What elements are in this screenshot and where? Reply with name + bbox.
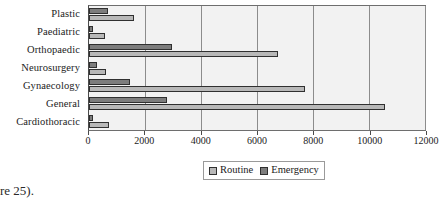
category-label: Orthopaedic <box>0 41 84 59</box>
bar-group <box>89 59 425 77</box>
bar-group <box>89 112 425 130</box>
category-axis: PlasticPaediatricOrthopaedicNeurosurgery… <box>0 5 84 131</box>
legend-label: Routine <box>220 165 253 176</box>
axis-tick-label: 0 <box>86 136 91 146</box>
bar-emergency <box>89 8 108 14</box>
bar-group <box>89 24 425 42</box>
bar-group <box>89 95 425 113</box>
axis-tick-label: 12000 <box>414 136 439 146</box>
category-label: General <box>0 95 84 113</box>
plot-area <box>88 5 426 131</box>
category-label: Cardiothoracic <box>0 113 84 131</box>
bar-routine <box>89 15 134 21</box>
bar-emergency <box>89 115 93 121</box>
legend-entry-routine: Routine <box>209 165 253 176</box>
caption-fragment: re 25). <box>0 184 34 197</box>
bar-emergency <box>89 79 130 85</box>
legend-entry-emergency: Emergency <box>260 165 319 176</box>
bar-group <box>89 41 425 59</box>
bar-routine <box>89 122 109 128</box>
bar-routine <box>89 86 305 92</box>
legend-swatch-icon <box>260 167 268 175</box>
bar-routine <box>89 69 106 75</box>
bar-emergency <box>89 62 97 68</box>
axis-tick-label: 4000 <box>191 136 211 146</box>
bar-group <box>89 77 425 95</box>
category-label: Gynaecology <box>0 77 84 95</box>
bar-chart-figure: PlasticPaediatricOrthopaedicNeurosurgery… <box>0 0 445 204</box>
bar-group <box>89 6 425 24</box>
axis-tick-label: 8000 <box>303 136 323 146</box>
bar-routine <box>89 51 278 57</box>
chart-legend: RoutineEmergency <box>203 161 325 180</box>
category-label: Paediatric <box>0 23 84 41</box>
category-label: Neurosurgery <box>0 59 84 77</box>
bar-emergency <box>89 97 167 103</box>
gridline <box>425 6 426 130</box>
bar-emergency <box>89 44 172 50</box>
bars-layer <box>89 6 425 130</box>
legend-swatch-icon <box>209 167 217 175</box>
value-axis: 020004000600080001000012000 <box>88 131 426 153</box>
bar-emergency <box>89 26 93 32</box>
axis-tick-label: 6000 <box>247 136 267 146</box>
axis-tick-label: 2000 <box>134 136 154 146</box>
legend-label: Emergency <box>271 165 319 176</box>
bar-routine <box>89 104 385 110</box>
category-label: Plastic <box>0 5 84 23</box>
bar-routine <box>89 33 105 39</box>
axis-tick-label: 10000 <box>357 136 382 146</box>
